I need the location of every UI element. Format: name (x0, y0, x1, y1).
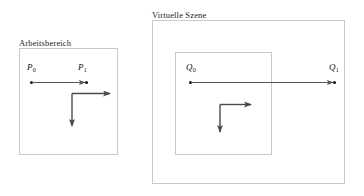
point-q0-label: Q0 (186, 62, 196, 72)
point-q0-dot (189, 81, 192, 84)
scene-caption: Virtuelle Szene (152, 10, 206, 20)
point-p1-subscript: 1 (84, 67, 87, 73)
point-q1-name: Q (329, 62, 336, 72)
diagram-canvas: Arbeitsbereich P0 P1 Virtuelle Szene Q0 … (0, 0, 364, 196)
point-q1-dot (333, 81, 336, 84)
point-q1-subscript: 1 (336, 67, 339, 73)
point-p1-dot (85, 81, 88, 84)
point-p0-label: P0 (27, 62, 36, 72)
point-p0-dot (30, 81, 33, 84)
point-p0-name: P (27, 62, 33, 72)
point-q0-subscript: 0 (193, 67, 196, 73)
point-q1-label: Q1 (329, 62, 339, 72)
point-p1-name: P (78, 62, 84, 72)
point-p1-label: P1 (78, 62, 87, 72)
point-p0-subscript: 0 (33, 67, 36, 73)
point-q0-name: Q (186, 62, 193, 72)
workspace-caption: Arbeitsbereich (19, 38, 71, 48)
